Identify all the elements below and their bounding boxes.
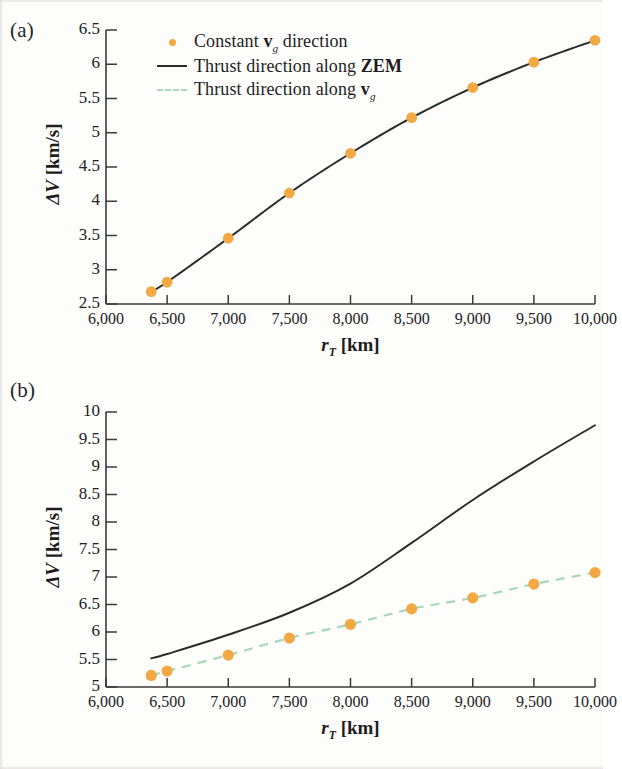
y-tick-label: 3 <box>54 259 100 279</box>
x-tick-label: 9,500 <box>499 310 569 328</box>
x-tick-label: 7,000 <box>193 310 263 328</box>
legend-item-vg: Thrust direction along vg <box>150 78 402 102</box>
x-tick-label: 10,000 <box>560 310 622 328</box>
y-tick-label: 7 <box>54 566 100 586</box>
y-tick-label: 10 <box>54 401 100 421</box>
x-tick-label: 6,000 <box>71 310 141 328</box>
y-tick-label: 8 <box>54 511 100 531</box>
x-tick-label: 8,000 <box>316 693 386 711</box>
legend-label-zem: Thrust direction along ZEM <box>194 56 402 77</box>
y-tick-label: 6.5 <box>54 594 100 614</box>
legend-dashed-line-icon <box>150 89 194 91</box>
x-tick-label: 10,000 <box>560 693 622 711</box>
x-tick-label: 8,000 <box>316 310 386 328</box>
y-tick-label: 4.5 <box>54 156 100 176</box>
x-tick-label: 8,500 <box>377 310 447 328</box>
legend-item-zem: Thrust direction along ZEM <box>150 54 402 78</box>
x-tick-label: 7,500 <box>254 310 324 328</box>
x-tick-label: 9,500 <box>499 693 569 711</box>
x-axis-label-b: rT [km] <box>271 717 431 743</box>
y-tick-label: 5.5 <box>54 88 100 108</box>
chart-panel-b: (b) ΔV [km/s] rT [km] 109.598.587.576.56… <box>0 380 603 769</box>
y-tick-label: 9.5 <box>54 429 100 449</box>
y-tick-label: 6.5 <box>54 19 100 39</box>
y-tick-label: 6 <box>54 53 100 73</box>
legend: Constant vg direction Thrust direction a… <box>150 30 402 102</box>
y-tick-label: 5 <box>54 122 100 142</box>
legend-item-constant-vg: Constant vg direction <box>150 30 402 54</box>
chart-panel-a: (a) ΔV [km/s] rT [km] Constant vg direct… <box>0 0 603 386</box>
y-tick-label: 4 <box>54 190 100 210</box>
x-tick-label: 8,500 <box>377 693 447 711</box>
legend-label-constant-vg: Constant vg direction <box>194 31 348 54</box>
x-tick-label: 9,000 <box>438 310 508 328</box>
y-tick-label: 5.5 <box>54 649 100 669</box>
panel-label-b: (b) <box>10 378 35 403</box>
x-tick-label: 7,000 <box>193 693 263 711</box>
legend-marker-dot-icon <box>150 39 194 46</box>
panel-label-a: (a) <box>10 18 34 43</box>
x-tick-label: 6,500 <box>132 310 202 328</box>
legend-label-vg: Thrust direction along vg <box>194 79 376 102</box>
y-tick-label: 9 <box>54 456 100 476</box>
legend-solid-line-icon <box>150 65 194 67</box>
x-tick-label: 6,500 <box>132 693 202 711</box>
x-tick-label: 7,500 <box>254 693 324 711</box>
x-tick-label: 9,000 <box>438 693 508 711</box>
y-tick-label: 8.5 <box>54 484 100 504</box>
y-tick-label: 6 <box>54 621 100 641</box>
x-tick-label: 6,000 <box>71 693 141 711</box>
x-axis-label-a: rT [km] <box>271 334 431 360</box>
y-tick-label: 7.5 <box>54 539 100 559</box>
y-tick-label: 3.5 <box>54 225 100 245</box>
plot-area-b <box>106 412 622 727</box>
